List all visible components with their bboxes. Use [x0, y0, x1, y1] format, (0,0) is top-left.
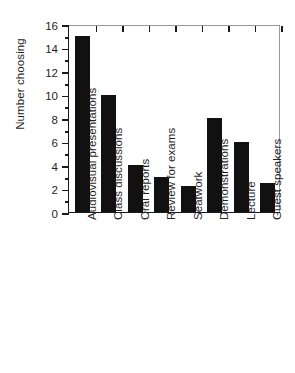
y-minor-tick-mark — [65, 131, 69, 133]
y-axis-title: Number choosing — [14, 19, 26, 149]
y-tick-mark — [62, 25, 69, 27]
x-axis-label-6: Lecture — [245, 181, 258, 220]
y-tick-label: 4 — [52, 160, 58, 175]
y-minor-tick-mark — [65, 107, 69, 109]
x-axis-label-4: Seatwork — [192, 172, 205, 220]
y-minor-tick-mark — [65, 60, 69, 62]
y-tick-mark — [62, 96, 69, 98]
y-tick-label: 8 — [52, 113, 58, 128]
y-tick-mark — [62, 166, 69, 168]
x-tick-3 — [149, 26, 151, 32]
y-minor-tick-mark — [65, 84, 69, 86]
y-tick-label: 14 — [45, 42, 58, 57]
x-axis-label-1: Class discussions — [112, 128, 125, 220]
x-tick-5 — [202, 26, 204, 32]
x-tick-8 — [281, 26, 283, 32]
y-tick-mark — [62, 49, 69, 51]
x-tick-1 — [96, 26, 98, 32]
y-minor-tick-mark — [65, 37, 69, 39]
y-tick-mark — [62, 143, 69, 145]
y-tick-label: 12 — [45, 66, 58, 81]
y-tick-mark — [62, 119, 69, 121]
y-tick-mark — [62, 213, 69, 215]
y-tick-label: 10 — [45, 89, 58, 104]
x-axis-label-7: Guest speakers — [271, 139, 284, 220]
x-axis-label-2: Oral reports — [139, 159, 152, 220]
y-tick-mark — [62, 72, 69, 74]
y-minor-tick-mark — [65, 154, 69, 156]
x-tick-6 — [228, 26, 230, 32]
x-axis-label-3: Review for exams — [165, 128, 178, 220]
y-tick-label: 6 — [52, 136, 58, 151]
y-tick-label: 2 — [52, 183, 58, 198]
x-tick-4 — [175, 26, 177, 32]
x-axis-label-5: Demonstrations — [218, 139, 231, 220]
y-tick-mark — [62, 190, 69, 192]
bar-chart: Number choosing 0246810121416 Audiovisua… — [0, 0, 295, 373]
y-tick-label: 16 — [45, 19, 58, 34]
y-minor-tick-mark — [65, 201, 69, 203]
y-minor-tick-mark — [65, 178, 69, 180]
x-axis-label-0: Audiovisual presentations — [86, 88, 99, 220]
x-tick-7 — [255, 26, 257, 32]
x-tick-2 — [122, 26, 124, 32]
y-tick-label: 0 — [52, 207, 58, 222]
